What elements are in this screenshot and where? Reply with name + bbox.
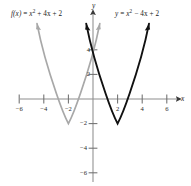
x-tick-label: −4 bbox=[37, 105, 51, 112]
y-tick-label: 4 bbox=[76, 46, 90, 53]
graph-figure: y x f(x) = x2 + 4x + 2 y = x2 − 4x + 2 −… bbox=[0, 0, 191, 186]
x-tick-label: 2 bbox=[111, 105, 125, 112]
equation-left-rest: + 4x + 2 bbox=[35, 10, 62, 18]
x-axis-label: x bbox=[181, 94, 184, 103]
equation-label-left: f(x) = x2 + 4x + 2 bbox=[11, 10, 62, 18]
coordinate-plane bbox=[0, 0, 191, 186]
x-tick-label: 6 bbox=[160, 105, 174, 112]
equation-label-right: y = x2 − 4x + 2 bbox=[115, 10, 159, 18]
equation-left-fn: f(x) bbox=[11, 10, 21, 18]
x-tick-label: 4 bbox=[135, 105, 149, 112]
equation-right-rest: − 4x + 2 bbox=[132, 10, 159, 18]
x-tick-label: −2 bbox=[61, 105, 75, 112]
y-tick-label: −2 bbox=[73, 119, 87, 126]
y-tick-label: −4 bbox=[73, 144, 87, 151]
y-tick-label: −6 bbox=[73, 169, 87, 176]
y-tick-label: 2 bbox=[76, 70, 90, 77]
x-tick-label: −6 bbox=[12, 105, 26, 112]
y-axis-label: y bbox=[92, 1, 95, 10]
